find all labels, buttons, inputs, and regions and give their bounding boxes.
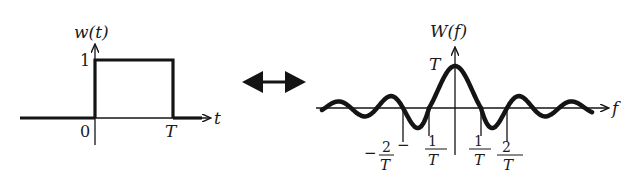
tick-label-minus-2-over-T: − 2 T	[364, 139, 394, 174]
svg-text:T: T	[474, 151, 485, 169]
peak-label-T: T	[429, 54, 442, 74]
svg-text:2: 2	[382, 139, 391, 155]
svg-text:T: T	[503, 156, 514, 174]
svg-text:2: 2	[502, 139, 511, 155]
svg-text:−: −	[397, 136, 410, 154]
f-axis-label: f	[610, 98, 621, 118]
left-plot: w(t) 1 0 T t	[20, 22, 221, 145]
W-of-f-label: W(f)	[430, 21, 467, 41]
svg-text:1: 1	[474, 133, 483, 149]
rectangular-pulse	[95, 60, 173, 118]
tick-label-minus-1-over-T: − 1 T	[397, 133, 447, 169]
svg-text:T: T	[380, 156, 391, 174]
sinc-curve	[322, 66, 592, 128]
fourier-pair-double-arrow-icon	[242, 71, 306, 93]
figure-canvas: w(t) 1 0 T t W(f) T f − 2 T	[0, 0, 642, 191]
w-of-t-label: w(t)	[74, 22, 109, 42]
x-tick-T: T	[165, 121, 178, 141]
t-axis-label: t	[214, 108, 221, 128]
tick-label-1-over-T: 1 T	[469, 133, 491, 169]
tick-label-2-over-T: 2 T	[497, 139, 523, 174]
svg-text:−: −	[364, 144, 377, 162]
x-tick-zero: 0	[80, 122, 90, 141]
svg-text:1: 1	[428, 133, 437, 149]
right-plot: W(f) T f − 2 T − 1 T 1 T 2 T	[316, 21, 621, 174]
svg-text:T: T	[428, 151, 439, 169]
y-tick-one: 1	[80, 51, 90, 70]
